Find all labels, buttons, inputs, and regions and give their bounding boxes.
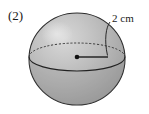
sphere-diagram-canvas: (2) 2 cm: [0, 0, 149, 114]
dimension-label: 2 cm: [112, 12, 134, 24]
sphere-figure: (2) 2 cm: [0, 0, 149, 114]
sphere-center-dot: [75, 55, 80, 60]
item-number-label: (2): [8, 8, 23, 23]
